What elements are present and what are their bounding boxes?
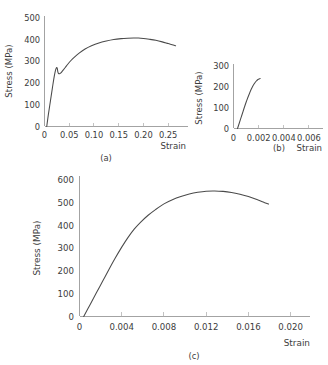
chart-b-ytick-labels: 0100200300 — [213, 61, 229, 134]
chart-b-ytick-label: 0 — [224, 124, 229, 134]
chart-a-y-axis-title: Stress (MPa) — [4, 44, 14, 97]
chart-c-ytick-label: 500 — [58, 198, 74, 208]
chart-a-ytick-labels: 0100200300400500 — [24, 13, 40, 132]
chart-b-curve — [238, 79, 261, 129]
chart-a-xtick-label: 0 — [42, 130, 47, 140]
chart-b-xtick-label: 0 — [231, 133, 236, 143]
chart-a-ytick-label: 400 — [24, 35, 40, 45]
chart-b-xtick-label: 0.004 — [272, 133, 296, 143]
chart-c-xtick-label: 0.020 — [278, 322, 303, 332]
chart-c-ytick-label: 200 — [58, 266, 74, 276]
chart-c-ytick-labels: 0100200300400500600 — [58, 175, 74, 322]
chart-a-curve — [47, 38, 176, 127]
chart-c-y-axis-title: Stress (MPa) — [32, 220, 42, 275]
chart-panel-c: 0100200300400500600 00.0040.0080.0120.01… — [22, 168, 322, 364]
chart-c-xtick-label: 0.012 — [194, 322, 219, 332]
chart-a-xtick-labels: 00.050.100.150.200.25 — [42, 130, 178, 140]
chart-c-ytick-label: 400 — [58, 221, 74, 231]
chart-a-xtick-label: 0.15 — [109, 130, 127, 140]
chart-b-xtick-labels: 00.0020.0040.006 — [231, 133, 321, 143]
chart-c-xtick-label: 0.004 — [109, 322, 134, 332]
chart-a-caption: (a) — [100, 153, 112, 163]
chart-c-xtick-label: 0.016 — [236, 322, 261, 332]
chart-c-axes — [80, 176, 311, 317]
chart-c-xtick-labels: 00.0040.0080.0120.0160.020 — [77, 322, 303, 332]
chart-a-axes — [45, 16, 189, 127]
chart-c-x-axis-title: Strain — [284, 338, 310, 348]
stress-strain-figure: 0100200300400500 00.050.100.150.200.25 S… — [0, 0, 328, 365]
chart-c-ytick-label: 100 — [58, 289, 74, 299]
chart-b-xticks — [259, 125, 309, 129]
chart-b-axes — [234, 64, 324, 129]
chart-b-ytick-label: 200 — [213, 82, 229, 92]
chart-c-curve — [84, 191, 269, 317]
chart-a-xtick-label: 0.25 — [159, 130, 177, 140]
chart-a-xtick-label: 0.10 — [85, 130, 103, 140]
chart-c-ytick-label: 300 — [58, 243, 74, 253]
chart-panel-a: 0100200300400500 00.050.100.150.200.25 S… — [0, 4, 196, 166]
chart-b-xtick-label: 0.006 — [297, 133, 321, 143]
chart-b-ytick-label: 300 — [213, 61, 229, 71]
chart-b-x-axis-title: Strain — [297, 143, 322, 153]
chart-c-svg: 0100200300400500600 00.0040.0080.0120.01… — [22, 168, 322, 364]
chart-c-ytick-label: 600 — [58, 175, 74, 185]
chart-c-caption: (c) — [188, 351, 199, 361]
chart-c-ytick-label: 0 — [69, 312, 74, 322]
chart-c-xtick-label: 0.008 — [152, 322, 177, 332]
chart-a-x-axis-title: Strain — [161, 141, 186, 151]
chart-c-curve-group — [84, 191, 269, 317]
chart-a-xticks — [69, 123, 168, 127]
chart-panel-b: 0100200300 00.0020.0040.006 Stress (MPa)… — [190, 56, 328, 166]
chart-b-ytick-label: 100 — [213, 103, 229, 113]
chart-c-xtick-label: 0 — [77, 322, 82, 332]
chart-a-xtick-label: 0.05 — [60, 130, 78, 140]
chart-a-ytick-label: 500 — [24, 13, 40, 23]
chart-b-svg: 0100200300 00.0020.0040.006 Stress (MPa)… — [190, 56, 328, 166]
chart-a-curve-group — [47, 38, 176, 127]
chart-a-ytick-label: 200 — [24, 78, 40, 88]
chart-a-svg: 0100200300400500 00.050.100.150.200.25 S… — [0, 4, 196, 166]
chart-a-xtick-label: 0.20 — [134, 130, 152, 140]
chart-c-xticks — [122, 312, 291, 317]
chart-a-ytick-label: 100 — [24, 100, 40, 110]
chart-a-ytick-label: 0 — [35, 122, 40, 132]
chart-b-y-axis-title: Stress (MPa) — [194, 71, 204, 124]
chart-b-caption: (b) — [273, 143, 285, 153]
chart-b-curve-group — [238, 79, 261, 129]
chart-b-xtick-label: 0.002 — [247, 133, 271, 143]
chart-a-ytick-label: 300 — [24, 56, 40, 66]
